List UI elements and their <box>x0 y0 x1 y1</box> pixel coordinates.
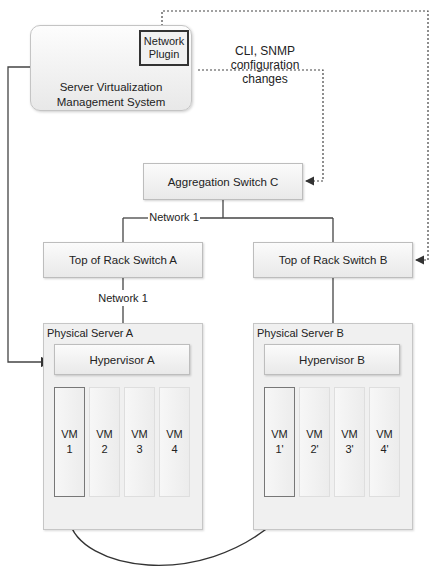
vm-a1: VM1 <box>54 387 85 497</box>
network-plugin-box: Network Plugin <box>139 30 189 66</box>
plugin-label-line2: Plugin <box>144 48 184 61</box>
hypervisor-a: Hypervisor A <box>54 344 190 375</box>
vm-a2: VM2 <box>89 387 120 497</box>
cli-snmp-annotation: CLI, SNMP configuration changes <box>220 44 310 86</box>
management-system-box: Network Plugin Server Virtualization Man… <box>30 25 192 111</box>
mgmt-to-hypervisor-arrow <box>8 67 50 362</box>
network-label-upper: Network 1 <box>148 211 200 223</box>
server-b-label: Physical Server B <box>257 327 344 339</box>
vm-b2: VM2' <box>299 387 330 497</box>
mgmt-title-line2: Management System <box>31 95 191 110</box>
server-a-label: Physical Server A <box>47 327 133 339</box>
tor-switch-b: Top of Rack Switch B <box>253 242 413 278</box>
mgmt-title-line1: Server Virtualization <box>31 80 191 95</box>
aggregation-switch-c: Aggregation Switch C <box>143 163 303 200</box>
physical-server-a: Physical Server A Hypervisor A VM1 VM2 V… <box>43 323 203 530</box>
plugin-label-line1: Network <box>144 35 184 48</box>
vm-a3: VM3 <box>124 387 155 497</box>
vm-b3: VM3' <box>334 387 365 497</box>
vm-b1: VM1' <box>264 387 295 497</box>
network-label-lower: Network 1 <box>97 292 149 304</box>
vm-b4: VM4' <box>369 387 400 497</box>
vm-a4: VM4 <box>159 387 190 497</box>
hypervisor-b: Hypervisor B <box>264 344 400 375</box>
physical-server-b: Physical Server B Hypervisor B VM1' VM2'… <box>253 323 413 530</box>
tor-switch-a: Top of Rack Switch A <box>43 242 203 278</box>
